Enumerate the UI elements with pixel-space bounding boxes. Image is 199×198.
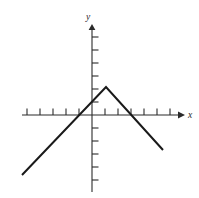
graph-figure: y x — [0, 0, 199, 198]
x-axis-label: x — [187, 110, 193, 120]
x-axis-arrow-icon — [178, 112, 185, 119]
y-axis-label: y — [85, 12, 91, 22]
coordinate-plot: y x — [0, 0, 199, 198]
y-axis-group — [89, 24, 99, 192]
x-axis-group — [22, 109, 185, 119]
y-axis-arrow-icon — [89, 24, 96, 30]
